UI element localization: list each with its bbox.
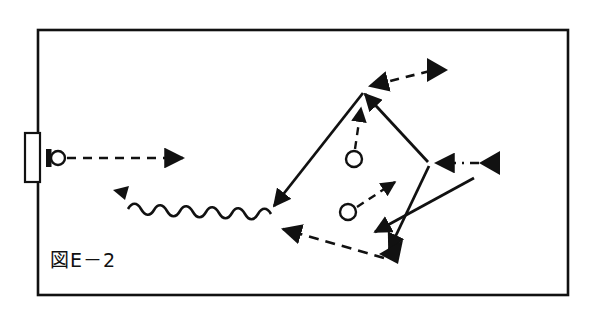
left-tab-rect <box>25 133 40 182</box>
figure-caption: 図E－2 <box>50 251 116 270</box>
quad-edge-top-right <box>365 94 428 162</box>
top-incoming-arrow <box>370 71 430 86</box>
quad-edge-bottom-right <box>389 166 429 250</box>
lower-circle-emission-arrow <box>357 182 395 207</box>
figure-container: 図E－2 <box>0 0 589 317</box>
wavy-emission-arrowhead <box>113 186 129 200</box>
interior-circle-lower <box>340 204 356 220</box>
right-incoming-large-arrowhead <box>479 151 500 175</box>
interior-circle-upper <box>346 151 362 167</box>
wavy-emission-arrow <box>128 204 271 220</box>
top-incoming-large-arrowhead <box>427 58 448 82</box>
bottom-incoming-arrow <box>375 178 474 232</box>
source-circle-icon <box>51 151 65 165</box>
quad-edge-bottom-left <box>283 229 384 258</box>
upper-circle-emission-arrow <box>355 108 361 149</box>
quad-edge-top-left <box>274 93 363 206</box>
